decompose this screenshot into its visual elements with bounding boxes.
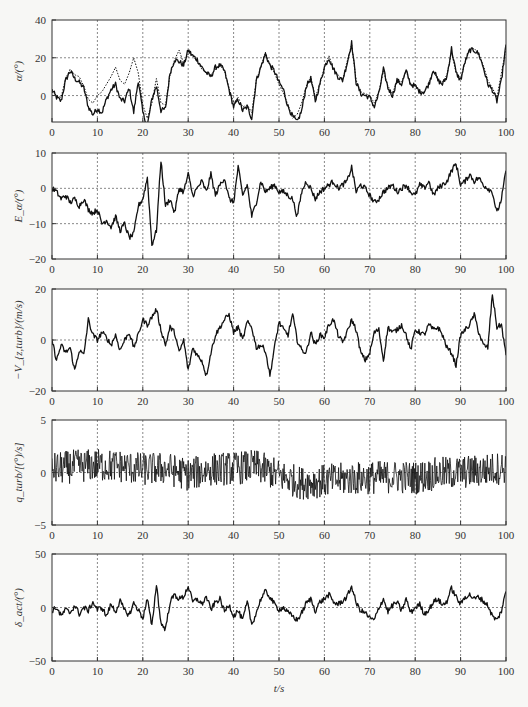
x-tick-label: 40	[228, 665, 240, 677]
x-tick-label: 80	[410, 529, 422, 541]
x-tick-label: 10	[92, 665, 104, 677]
x-tick-label: 60	[319, 395, 331, 407]
x-tick-label: 0	[49, 529, 55, 541]
x-tick-label: 10	[92, 529, 104, 541]
x-tick-label: 100	[498, 395, 515, 407]
y-axis-label: δ_act/(°)	[12, 588, 25, 627]
x-tick-label: 40	[228, 263, 240, 275]
x-tick-label: 10	[92, 263, 104, 275]
x-tick-label: 0	[49, 395, 55, 407]
y-tick-label: −50	[29, 655, 47, 667]
y-tick-label: −10	[29, 218, 47, 230]
subplot-q-turb: 0102030405060708090100−505q_turb/[(°)/s]	[12, 414, 515, 541]
y-tick-label: −5	[34, 519, 46, 531]
y-tick-label: 0	[41, 334, 47, 346]
y-axis-label: −V_{z,turb}/(m/s)	[12, 300, 25, 380]
x-tick-label: 20	[137, 263, 149, 275]
x-tick-label: 60	[319, 263, 331, 275]
x-tick-label: 40	[228, 126, 240, 138]
y-tick-label: −20	[29, 253, 47, 265]
x-tick-label: 20	[137, 126, 149, 138]
y-tick-label: 0	[41, 602, 47, 614]
plot-area	[52, 20, 506, 122]
x-tick-label: 80	[410, 395, 422, 407]
x-tick-label: 70	[364, 395, 376, 407]
x-tick-label: 70	[364, 126, 376, 138]
figure-canvas: 010203040506070809010002040α/(°)01020304…	[0, 0, 528, 707]
x-tick-label: 50	[274, 665, 286, 677]
x-tick-label: 60	[319, 665, 331, 677]
x-tick-label: 50	[274, 395, 286, 407]
x-tick-label: 50	[274, 529, 286, 541]
x-tick-label: 100	[498, 665, 515, 677]
x-tick-label: 90	[455, 665, 467, 677]
x-tick-label: 50	[274, 263, 286, 275]
x-tick-label: 70	[364, 665, 376, 677]
y-tick-label: 20	[35, 52, 47, 64]
x-tick-label: 90	[455, 395, 467, 407]
x-axis-label: t/s	[274, 682, 284, 694]
x-tick-label: 80	[410, 665, 422, 677]
y-tick-label: 50	[35, 548, 47, 560]
y-axis-label: α/(°)	[12, 60, 25, 81]
y-tick-label: 10	[35, 147, 47, 159]
y-axis-label: E_α/(°)	[12, 189, 25, 223]
x-tick-label: 30	[183, 126, 195, 138]
y-tick-label: −20	[29, 385, 47, 397]
y-tick-label: 20	[35, 283, 47, 295]
x-tick-label: 20	[137, 529, 149, 541]
x-tick-label: 60	[319, 126, 331, 138]
x-tick-label: 40	[228, 529, 240, 541]
subplot-panels: 010203040506070809010002040α/(°)01020304…	[12, 14, 515, 677]
x-tick-label: 60	[319, 529, 331, 541]
x-tick-label: 80	[410, 126, 422, 138]
x-tick-label: 30	[183, 665, 195, 677]
x-tick-label: 90	[455, 126, 467, 138]
subplot-delta-act: 0102030405060708090100−50050δ_act/(°)	[12, 548, 515, 677]
x-tick-label: 90	[455, 263, 467, 275]
x-tick-label: 10	[92, 126, 104, 138]
x-tick-label: 10	[92, 395, 104, 407]
x-tick-label: 0	[49, 126, 55, 138]
y-axis-label: q_turb/[(°)/s]	[12, 442, 25, 502]
x-tick-label: 70	[364, 529, 376, 541]
x-tick-label: 30	[183, 395, 195, 407]
subplot-alpha: 010203040506070809010002040α/(°)	[12, 14, 515, 138]
x-tick-label: 20	[137, 395, 149, 407]
subplot-vz-turb: 0102030405060708090100−20020−V_{z,turb}/…	[12, 283, 515, 407]
y-tick-label: 0	[41, 182, 47, 194]
x-tick-label: 40	[228, 395, 240, 407]
x-tick-label: 30	[183, 263, 195, 275]
y-tick-label: 40	[35, 14, 47, 26]
x-tick-label: 90	[455, 529, 467, 541]
y-tick-label: 0	[41, 90, 47, 102]
x-tick-label: 100	[498, 263, 515, 275]
x-tick-label: 0	[49, 665, 55, 677]
x-tick-label: 0	[49, 263, 55, 275]
x-tick-label: 30	[183, 529, 195, 541]
x-tick-label: 100	[498, 529, 515, 541]
x-tick-label: 100	[498, 126, 515, 138]
y-tick-label: 5	[41, 414, 47, 426]
x-tick-label: 20	[137, 665, 149, 677]
x-tick-label: 70	[364, 263, 376, 275]
x-tick-label: 80	[410, 263, 422, 275]
x-tick-label: 50	[274, 126, 286, 138]
subplot-e-alpha: 0102030405060708090100−20−10010E_α/(°)	[12, 147, 515, 275]
y-tick-label: 0	[41, 467, 47, 479]
